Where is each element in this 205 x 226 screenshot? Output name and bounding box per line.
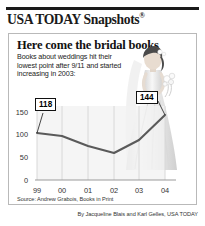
snapshot-infographic: USA TODAY Snapshots® Here come the brida… [0, 0, 205, 226]
masthead-brand-text: USA TODAY Snapshots [7, 11, 139, 27]
x-tick-02: 02 [107, 186, 121, 195]
registered-trademark-icon: ® [139, 11, 144, 20]
data-callout-144: 144 [136, 91, 158, 104]
y-tick-150: 150 [12, 108, 28, 117]
x-tick-04: 04 [158, 186, 172, 195]
y-tick-0: 0 [12, 176, 28, 185]
data-callout-118: 118 [35, 98, 56, 111]
masthead-brand: USA TODAY Snapshots® [7, 11, 145, 28]
x-tick-01: 01 [81, 186, 95, 195]
x-tick-99: 99 [30, 186, 44, 195]
source-note: Source: Andrew Grabois, Books in Print [17, 196, 113, 202]
y-tick-100: 100 [12, 130, 28, 139]
y-tick-50: 50 [12, 153, 28, 162]
x-tick-00: 00 [55, 186, 69, 195]
byline-credit: By Jacqueline Blais and Karl Gelles, USA… [77, 211, 198, 217]
masthead-divider [6, 7, 199, 10]
x-tick-03: 03 [132, 186, 146, 195]
line-chart [8, 33, 197, 205]
